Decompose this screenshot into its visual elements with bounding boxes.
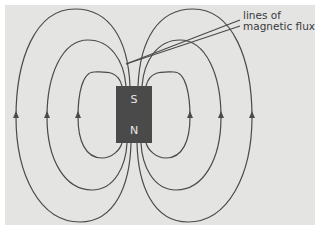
- north-pole-label: N: [117, 124, 151, 137]
- flux-annotation: lines of magnetic flux: [243, 10, 315, 32]
- south-pole-label: S: [117, 93, 151, 106]
- annotation-line-2: magnetic flux: [243, 21, 315, 32]
- field-lines: [0, 0, 321, 235]
